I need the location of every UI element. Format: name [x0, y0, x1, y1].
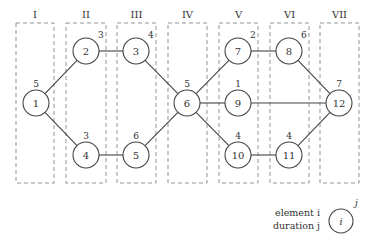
node-duration: 6	[301, 30, 307, 40]
node-3: 34	[123, 30, 154, 64]
stage-label: IV	[182, 9, 194, 20]
node-4: 43	[73, 131, 99, 168]
node-2: 23	[73, 30, 104, 64]
edge-3-6	[145, 60, 178, 93]
edge-11-12	[298, 112, 330, 145]
edge-5-6	[145, 112, 178, 145]
node-duration: 7	[336, 79, 342, 89]
node-8: 86	[276, 30, 307, 64]
stage-label: VI	[283, 9, 295, 20]
node-duration: 1	[235, 79, 241, 89]
node-label: 3	[133, 46, 139, 57]
node-label: 7	[235, 46, 241, 57]
node-duration: 3	[98, 30, 104, 40]
stage-label: VII	[331, 9, 347, 20]
node-duration: 5	[184, 79, 190, 89]
node-label: 6	[184, 98, 190, 109]
node-duration: 4	[148, 30, 154, 40]
node-1: 15	[23, 79, 49, 116]
node-duration: 3	[83, 131, 89, 141]
node-label: 1	[33, 98, 39, 109]
node-label: 11	[283, 150, 296, 161]
node-9: 91	[225, 79, 251, 116]
legend-node-symbol: i	[339, 216, 342, 227]
legend-duration-label: duration j	[273, 220, 320, 231]
node-duration: 4	[286, 131, 292, 141]
node-5: 56	[123, 131, 149, 168]
node-10: 104	[225, 131, 251, 168]
stage-label: V	[234, 9, 243, 20]
edge-1-2	[45, 60, 77, 93]
node-7: 72	[225, 30, 256, 64]
node-label: 10	[232, 150, 245, 161]
node-label: 12	[333, 98, 346, 109]
node-duration: 6	[133, 131, 139, 141]
edge-6-10	[196, 112, 229, 145]
legend-element-label: element i	[275, 207, 320, 218]
node-label: 2	[83, 46, 89, 57]
stage-label: II	[82, 9, 90, 20]
node-label: 5	[133, 150, 139, 161]
node-12: 127	[326, 79, 352, 116]
node-duration: 4	[235, 131, 241, 141]
stage-label: I	[33, 9, 37, 20]
node-label: 8	[286, 46, 292, 57]
node-label: 9	[235, 98, 241, 109]
nodes: 152334435665728691104114127	[23, 30, 352, 168]
stage-label: III	[131, 9, 143, 20]
edge-8-12	[298, 60, 330, 93]
edge-6-7	[196, 60, 229, 93]
node-duration: 5	[33, 79, 39, 89]
node-duration: 2	[250, 30, 256, 40]
node-11: 114	[276, 131, 302, 168]
network-diagram: IIIIIIIVVVIVII 1523344356657286911041141…	[0, 0, 372, 241]
legend-duration-symbol: j	[353, 198, 358, 208]
edge-1-4	[45, 112, 77, 145]
node-label: 4	[83, 150, 89, 161]
legend: element i duration j i j	[273, 198, 358, 233]
node-6: 65	[174, 79, 200, 116]
